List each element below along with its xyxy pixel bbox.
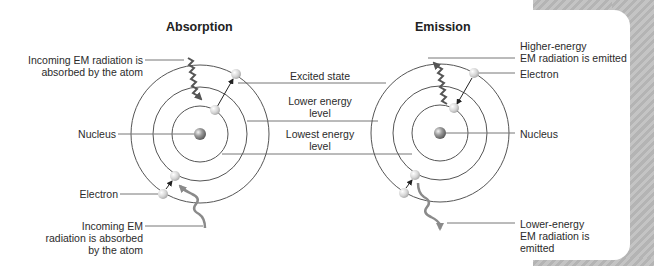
label-electron-right: Electron <box>520 68 559 80</box>
label-incoming-bottom: Incoming EM radiation is absorbed by the… <box>46 220 143 256</box>
electron-icon <box>399 188 409 198</box>
label-lower-energy-level: Lower energy level <box>272 95 368 119</box>
label-electron-left: Electron <box>79 188 118 200</box>
incoming-radiation-wave-top <box>188 58 201 99</box>
emission-atom <box>371 58 515 229</box>
label-excited-state: Excited state <box>272 70 368 82</box>
electron-icon <box>231 69 241 79</box>
electron-icon <box>469 68 479 78</box>
incoming-radiation-wave-bottom <box>180 186 205 228</box>
absorption-title: Absorption <box>166 20 233 34</box>
label-higher-energy: Higher-energy EM radiation is emitted <box>520 40 627 64</box>
label-nucleus-right: Nucleus <box>520 128 558 140</box>
nucleus-icon <box>434 127 446 139</box>
electron-icon <box>410 170 420 180</box>
label-lowest-energy-level: Lowest energy level <box>272 128 368 152</box>
label-incoming-top: Incoming EM radiation is absorbed by the… <box>28 54 143 78</box>
label-nucleus-left: Nucleus <box>78 128 116 140</box>
electron-jump-arrow <box>166 181 172 189</box>
electron-icon <box>210 105 220 115</box>
electron-jump-arrow <box>217 79 233 107</box>
emitted-radiation-wave-top <box>434 63 447 104</box>
electron-drop-arrow <box>457 78 472 104</box>
electron-icon <box>170 171 180 181</box>
emitted-radiation-wave-bottom <box>418 183 440 229</box>
emission-title: Emission <box>415 20 471 34</box>
electron-jump-arrow <box>406 180 412 188</box>
label-lower-energy: Lower-energy EM radiation is emitted <box>520 218 589 254</box>
absorption-atom <box>118 58 269 228</box>
electron-icon <box>158 189 168 199</box>
nucleus-icon <box>194 128 206 140</box>
electron-icon <box>449 103 459 113</box>
